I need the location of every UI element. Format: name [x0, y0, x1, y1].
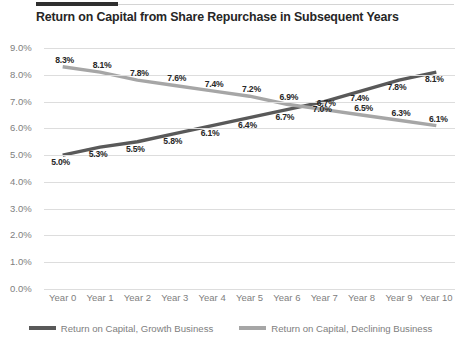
gridline — [44, 182, 455, 183]
data-point-label: 6.7% — [317, 98, 336, 108]
y-axis-tick-label: 8.0% — [10, 69, 32, 80]
x-axis-tick-label: Year 5 — [236, 292, 263, 303]
data-point-label: 6.3% — [392, 108, 411, 118]
data-point-label: 6.5% — [354, 103, 373, 113]
x-axis: Year 0Year 1Year 2Year 3Year 4Year 5Year… — [44, 292, 455, 308]
data-point-label: 5.0% — [51, 157, 70, 167]
data-point-label: 8.1% — [93, 60, 112, 70]
y-axis: 0.0%1.0%2.0%3.0%4.0%5.0%6.0%7.0%8.0%9.0% — [0, 0, 44, 341]
x-axis-tick-label: Year 9 — [385, 292, 412, 303]
x-axis-tick-label: Year 2 — [124, 292, 151, 303]
y-axis-tick-label: 7.0% — [10, 96, 32, 107]
x-axis-tick-label: Year 4 — [199, 292, 226, 303]
data-point-label: 5.8% — [163, 136, 182, 146]
line-swatch-icon — [29, 326, 56, 329]
legend-item-declining[interactable]: Return on Capital, Declining Business — [239, 323, 432, 334]
gridline — [44, 48, 455, 49]
x-axis-tick-label: Year 3 — [161, 292, 188, 303]
x-axis-tick-label: Year 7 — [311, 292, 338, 303]
y-axis-tick-label: 3.0% — [10, 203, 32, 214]
y-axis-tick-label: 6.0% — [10, 122, 32, 133]
gridline — [44, 102, 455, 103]
y-axis-tick-label: 9.0% — [10, 42, 32, 53]
x-axis-tick-label: Year 10 — [420, 292, 452, 303]
data-point-label: 6.7% — [275, 112, 294, 122]
title-rule — [0, 0, 461, 6]
data-point-label: 5.3% — [89, 149, 108, 159]
legend-item-label: Return on Capital, Growth Business — [61, 323, 214, 334]
data-point-label: 7.2% — [242, 84, 261, 94]
data-point-label: 6.4% — [238, 120, 257, 130]
plot-area: 5.0%5.3%5.5%5.8%6.1%6.4%6.7%7.0%7.4%7.8%… — [44, 48, 455, 289]
x-axis-tick-label: Year 0 — [49, 292, 76, 303]
data-point-label: 6.9% — [279, 92, 298, 102]
gridline — [44, 262, 455, 263]
y-axis-tick-label: 2.0% — [10, 229, 32, 240]
data-point-label: 7.4% — [350, 93, 369, 103]
line-swatch-icon — [239, 326, 266, 329]
gridline — [44, 209, 455, 210]
data-point-label: 8.1% — [425, 74, 444, 84]
data-point-label: 6.1% — [201, 128, 220, 138]
gridline — [44, 289, 455, 290]
data-point-label: 7.4% — [205, 79, 224, 89]
legend-item-growth[interactable]: Return on Capital, Growth Business — [29, 323, 214, 334]
legend-item-label: Return on Capital, Declining Business — [271, 323, 432, 334]
data-point-label: 8.3% — [55, 55, 74, 65]
x-axis-tick-label: Year 6 — [273, 292, 300, 303]
chart-title: Return on Capital from Share Repurchase … — [36, 10, 399, 24]
data-point-label: 7.8% — [388, 82, 407, 92]
y-axis-tick-label: 0.0% — [10, 283, 32, 294]
y-axis-tick-label: 5.0% — [10, 149, 32, 160]
gridline — [44, 75, 455, 76]
data-point-label: 5.5% — [126, 144, 145, 154]
chart-legend: Return on Capital, Growth BusinessReturn… — [0, 318, 461, 338]
y-axis-tick-label: 4.0% — [10, 176, 32, 187]
data-point-label: 7.8% — [130, 68, 149, 78]
data-point-label: 7.6% — [167, 73, 186, 83]
gridline — [44, 235, 455, 236]
data-point-label: 6.1% — [429, 114, 448, 124]
x-axis-tick-label: Year 8 — [348, 292, 375, 303]
title-rule-accent — [36, 2, 118, 6]
x-axis-tick-label: Year 1 — [86, 292, 113, 303]
y-axis-tick-label: 1.0% — [10, 256, 32, 267]
